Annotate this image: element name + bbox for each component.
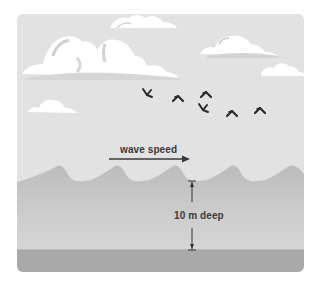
seabed [17, 250, 304, 272]
depth-label: 10 m deep [174, 210, 224, 221]
diagram-panel: wave speed 10 m deep [17, 14, 304, 272]
ocean-scene [17, 14, 304, 272]
wave-speed-label: wave speed [120, 144, 177, 155]
